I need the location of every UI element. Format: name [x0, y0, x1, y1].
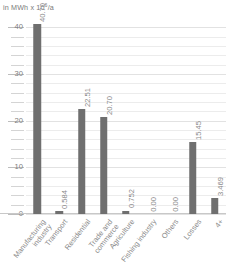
y-tick-mark-minor — [11, 37, 24, 38]
bar[interactable] — [211, 198, 219, 214]
bar-slot: 20.70 — [93, 18, 115, 214]
bar-slot: 3.469 — [204, 18, 226, 214]
bar-value-label: 20.70 — [106, 96, 114, 115]
y-tick-mark-minor — [11, 177, 24, 178]
bar-slot: 0.00 — [159, 18, 181, 214]
bar-value-label: 3.469 — [217, 177, 225, 196]
bar-value-label: 0.584 — [61, 190, 69, 209]
y-tick-mark-minor — [11, 102, 24, 103]
y-tick-mark-minor — [11, 55, 24, 56]
y-tick-mark-minor — [11, 130, 24, 131]
bar-slot: 0.00 — [137, 18, 159, 214]
y-tick-label: 10 — [15, 164, 23, 172]
bar[interactable] — [100, 117, 108, 214]
y-tick-mark-minor — [11, 205, 24, 206]
y-tick-mark-minor — [11, 186, 24, 187]
axis-unit-title-suffix: /a — [48, 3, 54, 12]
bar-value-label: 0.752 — [128, 189, 136, 208]
bar-value-label: 22.51 — [84, 88, 92, 107]
plot-area: 40.700.58422.5120.700.7520.000.0015.453.… — [26, 18, 226, 214]
y-tick-mark-minor — [11, 83, 24, 84]
bar-slot: 15.45 — [182, 18, 204, 214]
y-tick-mark-minor — [11, 149, 24, 150]
gridline-major — [26, 214, 226, 215]
bar-slot: 0.584 — [48, 18, 70, 214]
y-tick-mark-minor — [11, 93, 24, 94]
bar-slot: 40.70 — [26, 18, 48, 214]
bar-chart: in MWh x 106/a 010203040 40.700.58422.51… — [0, 0, 228, 280]
bar-value-label: 40.70 — [39, 3, 47, 22]
bar[interactable] — [33, 24, 41, 214]
y-tick-mark-minor — [11, 195, 24, 196]
y-tick-mark-minor — [11, 111, 24, 112]
bar-value-label: 15.45 — [195, 121, 203, 140]
bar[interactable] — [122, 211, 130, 215]
y-tick-mark-minor — [11, 46, 24, 47]
y-tick-label: 0 — [19, 210, 23, 218]
y-tick-mark-minor — [11, 139, 24, 140]
bar-slot: 22.51 — [70, 18, 92, 214]
bar-slot: 0.752 — [115, 18, 137, 214]
bar-value-label: 0.00 — [150, 197, 158, 212]
y-tick-label: 20 — [15, 117, 23, 125]
y-tick-label: 30 — [15, 70, 23, 78]
y-tick-mark-minor — [11, 158, 24, 159]
bar[interactable] — [78, 109, 86, 214]
y-tick-label: 40 — [15, 24, 23, 32]
y-axis: 010203040 — [0, 18, 26, 214]
bar-value-label: 0.00 — [172, 197, 180, 212]
y-tick-mark-minor — [11, 65, 24, 66]
bar[interactable] — [56, 211, 64, 214]
bar[interactable] — [189, 142, 197, 214]
